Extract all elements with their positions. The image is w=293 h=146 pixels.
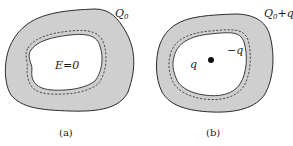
outer-charge-label-a: Q0	[115, 7, 129, 21]
conductor-cavity-diagram: E=0 Q0 (a) q −q Q0+q (b)	[0, 0, 293, 146]
panel-b: q −q Q0+q (b)	[156, 7, 293, 138]
point-charge-q	[208, 57, 214, 63]
caption-a: (a)	[59, 127, 73, 138]
outer-charge-label-b: Q0+q	[264, 7, 293, 21]
induced-charge-label: −q	[227, 44, 243, 57]
panel-a: E=0 Q0 (a)	[5, 7, 133, 138]
cavity-field-label: E=0	[54, 59, 79, 72]
point-charge-label: q	[190, 58, 197, 71]
caption-b: (b)	[206, 127, 220, 138]
cavity-b	[173, 33, 246, 96]
